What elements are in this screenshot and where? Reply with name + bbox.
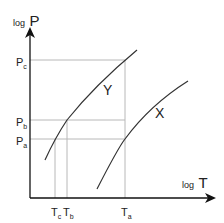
y-axis-label-var: P [29,12,39,29]
y-tick-sub: c [23,63,27,70]
y-tick-pa: Pa [16,132,27,148]
x-tick-tb: Tb [63,203,74,219]
x-tick-main: T [121,206,128,218]
x-tick-sub: b [70,213,74,220]
y-tick-pb: Pb [16,113,27,129]
y-tick-sub: b [23,123,27,130]
x-tick-ta: Ta [121,203,132,219]
x-tick-sub: a [128,213,132,220]
y-tick-sub: a [23,142,27,149]
x-tick-tc: Tc [51,203,61,219]
x-axis-label: log T [182,175,208,191]
curve-x-label: X [155,106,164,120]
guide-lines [30,60,125,198]
y-axis-label: log P [13,13,39,29]
x-tick-main: T [51,206,58,218]
x-tick-sub: c [58,213,62,220]
x-axis-label-prefix: log [182,180,194,190]
y-tick-pc: Pc [16,53,27,69]
x-axis-label-var: T [198,174,207,191]
x-tick-main: T [63,206,70,218]
curve-y-label: Y [103,83,112,97]
y-axis-label-prefix: log [13,18,25,28]
curve-y [45,50,137,160]
